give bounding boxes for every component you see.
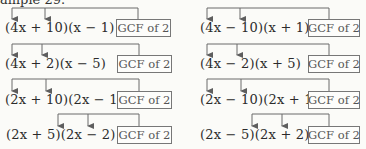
gcf-box-left-1: GCF of 2 (116, 19, 171, 37)
expression-right-1: (4x − 10)(x + 1) (200, 20, 310, 35)
expression-right-3: (2x − 10)(2x + 1) (200, 92, 318, 107)
expression-left-1: (4x + 10)(x − 1) (5, 20, 115, 35)
gcf-box-left-4: GCF of 2 (117, 126, 172, 144)
gcf-box-right-2: GCF of 2 (308, 55, 360, 73)
gcf-box-right-3: GCF of 2 (308, 91, 360, 109)
expression-left-3: (2x + 10)(2x − 1) (5, 92, 123, 107)
expression-right-4: (2x − 5)(2x + 2) (200, 127, 310, 142)
expression-right-2: (4x − 2)(x + 5) (200, 56, 301, 71)
gcf-box-left-2: GCF of 2 (117, 55, 172, 73)
gcf-box-right-1: GCF of 2 (308, 19, 360, 37)
expression-left-4: (2x + 5)(2x − 2) (6, 127, 116, 142)
gcf-box-right-4: GCF of 2 (308, 126, 360, 144)
gcf-diagram: (4x + 10)(x − 1) GCF of 2 (4x + 2)(x − 5… (0, 0, 366, 149)
expression-left-2: (4x + 2)(x − 5) (5, 56, 106, 71)
gcf-box-left-3: GCF of 2 (117, 91, 172, 109)
